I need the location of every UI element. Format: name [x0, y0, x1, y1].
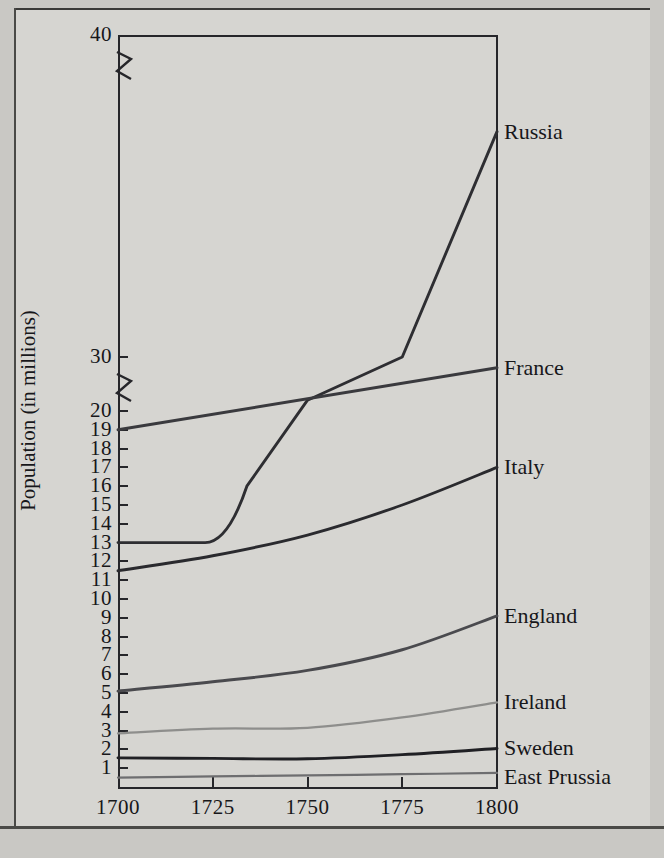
series-line-russia — [118, 132, 497, 543]
series-line-sweden — [118, 748, 497, 759]
series-line-east-prussia — [118, 773, 497, 778]
series-lines — [0, 0, 664, 858]
chart-page: Population (in millions) 123456789101112… — [0, 0, 664, 858]
series-line-ireland — [118, 702, 497, 733]
series-line-england — [118, 616, 497, 691]
series-line-italy — [118, 467, 497, 570]
series-line-france — [118, 368, 497, 430]
